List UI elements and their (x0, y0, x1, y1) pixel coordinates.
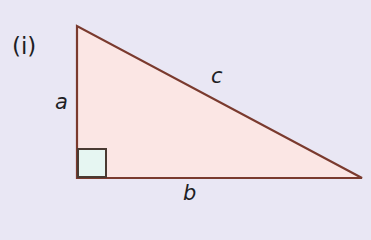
side-label-c: c (211, 66, 223, 87)
right-angle-marker (78, 149, 106, 177)
side-label-b: b (183, 183, 196, 204)
figure-label: (i) (12, 35, 36, 58)
triangle (77, 26, 362, 178)
side-label-a: a (55, 92, 68, 113)
